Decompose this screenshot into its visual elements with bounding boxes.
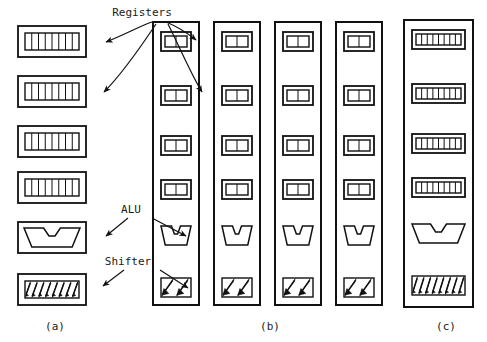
panel-b-slice-1 <box>214 22 260 305</box>
panel-a-register-3 <box>18 172 86 203</box>
panel-b-register-2-2 <box>283 136 313 155</box>
panel-b-register-1-1 <box>222 86 252 105</box>
registers-label: Registers <box>112 6 172 19</box>
panel-a-register-2 <box>18 126 86 157</box>
panel-b-register-2-1 <box>283 86 313 105</box>
panel-b-register-3-0 <box>344 32 374 51</box>
panel-c-register-0 <box>412 30 465 49</box>
panel-b-register-1-0 <box>222 32 252 51</box>
panel-b-slice-0 <box>153 22 199 305</box>
panel-b-register-3-3 <box>344 180 374 199</box>
panel-c-register-1 <box>412 84 465 103</box>
panel-b-shifter-2-5 <box>283 278 313 297</box>
panel-c-register-2 <box>412 134 465 153</box>
caption-a: (a) <box>45 320 65 333</box>
panel-a-alu-4 <box>18 222 86 253</box>
panel-b-register-2-3 <box>283 180 313 199</box>
panel-a-register-1 <box>18 76 86 107</box>
caption-c: (c) <box>436 320 456 333</box>
shifter-to-a-shifter <box>103 270 124 286</box>
slice-outline <box>404 20 473 307</box>
panel-b-shifter-1-5 <box>222 278 252 297</box>
panel-captions: (a)(b)(c) <box>45 320 456 333</box>
panel-c-shifter-5 <box>412 276 465 295</box>
panel-a-register-0 <box>18 26 86 57</box>
panel-c-slice-0 <box>404 20 473 307</box>
slice-outline <box>336 22 382 305</box>
panel-b-register-0-1 <box>161 86 191 105</box>
panel-b-slice-3 <box>336 22 382 305</box>
panel-b-register-2-0 <box>283 32 313 51</box>
panel-a <box>18 26 86 305</box>
panel-a-shifter-5 <box>18 274 86 305</box>
registers-to-a-reg2 <box>104 24 156 92</box>
shifter-label: Shifter <box>105 255 152 268</box>
panel-b-register-3-2 <box>344 136 374 155</box>
figure-container: Registers ALU Shifter (a)(b)(c) <box>0 0 487 342</box>
caption-b: (b) <box>260 320 280 333</box>
panel-b-register-0-2 <box>161 136 191 155</box>
panel-c-register-3 <box>412 178 465 197</box>
panel-b-register-1-2 <box>222 136 252 155</box>
alu-label: ALU <box>121 203 141 216</box>
panel-b-shifter-3-5 <box>344 278 374 297</box>
panel-b-slice-2 <box>275 22 321 305</box>
panel-c <box>404 20 473 307</box>
bit-slice-architecture-diagram: Registers ALU Shifter (a)(b)(c) <box>0 0 487 342</box>
panel-b-register-0-3 <box>161 180 191 199</box>
alu-to-a-alu <box>106 218 128 236</box>
panel-b-register-1-3 <box>222 180 252 199</box>
slice-outline <box>153 22 199 305</box>
slice-outline <box>214 22 260 305</box>
slice-outline <box>275 22 321 305</box>
panel-b-register-3-1 <box>344 86 374 105</box>
